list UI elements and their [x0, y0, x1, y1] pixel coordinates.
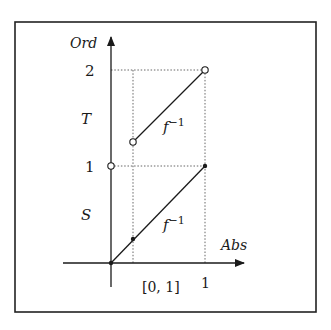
upper-label-sup: −1 [169, 116, 185, 129]
open-point-y1-axis [108, 163, 114, 169]
diagram-canvas: Ord Abs 2 1 T S 1 [0, 1] f−1 f−1 [0, 0, 331, 330]
guide-lines [111, 70, 205, 263]
region-label-S: S [81, 206, 91, 224]
filled-point-origin [109, 261, 113, 265]
open-point-upper-end [202, 67, 208, 73]
x-tick-1: 1 [201, 275, 210, 291]
open-point-upper-start [130, 139, 136, 145]
filled-point-lower-mid [131, 237, 135, 241]
filled-point-lower-end [203, 164, 207, 168]
upper-segment [133, 70, 205, 142]
x-interval-label: [0, 1] [142, 279, 180, 295]
y-tick-1: 1 [85, 158, 95, 176]
lower-segment-label: f−1 [162, 214, 185, 234]
lower-segment [111, 166, 205, 263]
frame-border [15, 22, 316, 312]
upper-segment-label: f−1 [162, 116, 185, 136]
region-label-T: T [81, 110, 92, 128]
y-axis-label: Ord [70, 35, 97, 51]
lower-label-sup: −1 [169, 214, 185, 227]
x-axis-label: Abs [219, 237, 247, 253]
y-tick-2: 2 [85, 62, 95, 80]
